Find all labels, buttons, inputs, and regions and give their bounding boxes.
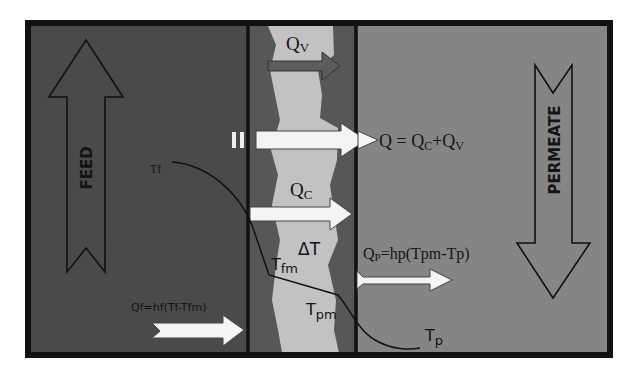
delta-t-label: ΔT xyxy=(298,239,321,259)
q-total-equation: Q = QC+QV xyxy=(379,131,464,153)
permeate-label: PERMEATE xyxy=(546,106,564,195)
feed-label: FEED xyxy=(78,146,96,189)
heat-dash-1 xyxy=(232,132,236,148)
membrane-distillation-heat-transfer-diagram: FEED PERMEATE QV Q = QC+QV QC Tf ΔT Tfm … xyxy=(0,0,633,387)
qf-equation: Qf=hf(Tf-Tfm) xyxy=(131,301,206,314)
heat-dash-2 xyxy=(240,132,244,148)
tf-label: Tf xyxy=(150,162,161,176)
